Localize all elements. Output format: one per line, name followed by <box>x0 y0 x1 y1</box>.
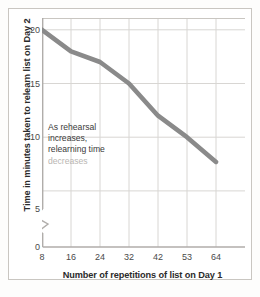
y-tick-0: 0 <box>18 242 40 252</box>
annotation-line-1: As rehearsal <box>48 122 105 133</box>
x-tick-16: 16 <box>66 252 76 262</box>
x-axis-title: Number of repetitions of list on Day 1 <box>30 270 255 280</box>
y-tick-10: 10 <box>18 132 40 142</box>
y-tick-5: 5 <box>18 204 40 214</box>
y-tick-15: 15 <box>18 79 40 89</box>
y-tick-20: 20 <box>18 25 40 35</box>
x-tick-64: 64 <box>211 252 221 262</box>
annotation-line-2: increases, <box>48 133 105 144</box>
chart-page: Time in minutes taken to relearn list on… <box>0 0 260 297</box>
chart-annotation: As rehearsal increases, relearning time … <box>48 122 105 167</box>
y-axis-ticks: 20 15 10 5 0 <box>16 18 40 250</box>
annotation-line-3: relearning time <box>48 144 105 155</box>
x-tick-32: 32 <box>124 252 134 262</box>
x-tick-24: 24 <box>95 252 105 262</box>
x-tick-53: 53 <box>182 252 192 262</box>
x-tick-42: 42 <box>153 252 163 262</box>
x-tick-8: 8 <box>39 252 44 262</box>
x-axis-ticks: 8 16 24 32 42 53 64 <box>42 252 245 268</box>
annotation-line-4: decreases <box>48 156 105 167</box>
